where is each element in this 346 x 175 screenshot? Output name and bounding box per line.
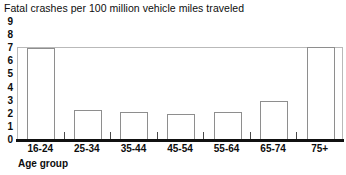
x-axis-tick	[64, 132, 65, 139]
y-axis-tick-label: 8	[7, 30, 13, 40]
y-axis-tick-label: 3	[7, 96, 13, 106]
x-axis-title: Age group	[18, 158, 68, 170]
y-axis-tick-label: 0	[7, 135, 13, 145]
x-axis-tick	[110, 132, 111, 139]
x-axis-tick-label: 65-74	[250, 143, 297, 155]
x-axis-tick-labels: 16-2425-3435-4445-5455-6465-7475+	[17, 143, 343, 157]
chart-title: Fatal crashes per 100 million vehicle mi…	[4, 2, 244, 14]
bar	[27, 48, 55, 140]
x-axis-ticks	[17, 132, 343, 140]
y-axis-tick-label: 6	[7, 56, 13, 66]
bars-layer	[18, 48, 342, 140]
x-axis-tick-label: 25-34	[64, 143, 111, 155]
x-axis-tick-label: 35-44	[110, 143, 157, 155]
x-axis-tick-label: 16-24	[17, 143, 64, 155]
plot-area	[17, 47, 343, 140]
y-axis-tick-label: 7	[7, 43, 13, 53]
x-axis-tick	[203, 132, 204, 139]
y-axis-tick-label: 4	[7, 83, 13, 93]
y-axis-tick-label: 2	[7, 109, 13, 119]
x-axis-tick-label: 45-54	[157, 143, 204, 155]
x-axis-tick	[157, 132, 158, 139]
x-axis-tick-label: 55-64	[203, 143, 250, 155]
bar-chart-figure: Fatal crashes per 100 million vehicle mi…	[0, 0, 346, 175]
x-axis-tick	[250, 132, 251, 139]
y-axis-tick-label: 1	[7, 122, 13, 132]
x-axis-tick-label: 75+	[296, 143, 343, 155]
y-axis-tick-labels: 0123456789	[0, 14, 16, 146]
y-axis-tick-label: 5	[7, 69, 13, 79]
bar	[307, 47, 335, 140]
x-axis-tick	[296, 132, 297, 139]
y-axis-tick-label: 9	[7, 17, 13, 27]
